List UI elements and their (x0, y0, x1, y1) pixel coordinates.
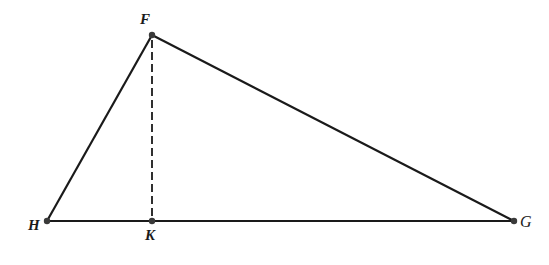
point-K (149, 218, 155, 224)
point-F (149, 32, 155, 38)
label-G: G (520, 214, 532, 230)
label-K: K (145, 228, 155, 243)
triangle-diagram: F H K G (0, 0, 549, 265)
point-G (511, 218, 517, 224)
segment-FH (47, 35, 152, 221)
segment-FG (152, 35, 514, 221)
label-F: F (140, 12, 150, 27)
diagram-canvas (0, 0, 549, 265)
point-H (44, 218, 50, 224)
label-H: H (28, 218, 40, 233)
